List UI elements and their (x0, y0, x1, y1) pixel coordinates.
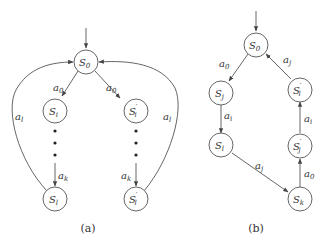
state-node-a-s0: S0 (74, 50, 98, 74)
ellipsis-dot (53, 129, 56, 132)
svg-text:S′l: S′l (293, 82, 302, 98)
edge-label: a0 (106, 82, 117, 95)
state-node-b-sk: Sk (288, 187, 312, 211)
svg-text:S′j: S′j (293, 138, 302, 154)
edge-label: ai (304, 113, 312, 126)
edge-label: ak (58, 170, 68, 183)
ellipsis-dot (134, 153, 137, 156)
caption-b: (b) (248, 222, 264, 235)
svg-text:S′l: S′l (129, 191, 138, 207)
state-node-b-sjp: S′j (288, 134, 312, 158)
edge-b-s0-sj (229, 54, 248, 81)
state-node-a-sip: S′i (124, 99, 148, 123)
edge-label: aj (283, 54, 292, 67)
ellipsis-dot (134, 129, 137, 132)
state-node-b-sl: Sl (209, 133, 233, 157)
state-node-b-s0: S0 (244, 33, 268, 57)
edge-label: al (15, 111, 23, 124)
state-node-a-sl: Sl (43, 187, 67, 211)
edge-label: ai (224, 110, 232, 123)
caption-a: (a) (80, 222, 95, 235)
edge-a-s0-si (62, 71, 78, 96)
edge-label: aj (255, 160, 264, 173)
edge-label: a0 (304, 168, 315, 181)
diagram-b: a0 ai aj a0 ai aj S0 Sj Sl Sk S′j S′l (209, 11, 315, 235)
diagram-a: a0 a0 ak ak al al S0 Si S′i Sl S′l (a) (12, 28, 178, 235)
ellipsis-dot (134, 141, 137, 144)
state-node-a-si: Si (43, 99, 67, 123)
edge-label: a0 (53, 82, 64, 95)
svg-text:S′i: S′i (129, 103, 138, 119)
state-node-b-slp: S′l (288, 78, 312, 102)
edge-a-slp-s0 (99, 62, 178, 191)
state-diagram-canvas: a0 a0 ak ak al al S0 Si S′i Sl S′l (a) (0, 0, 328, 243)
edge-label: ak (121, 170, 131, 183)
edge-label: a0 (219, 58, 230, 71)
state-node-b-sj: Sj (209, 81, 233, 105)
edge-label: al (163, 111, 171, 124)
state-node-a-slp: S′l (124, 187, 148, 211)
ellipsis-dot (53, 153, 56, 156)
ellipsis-dot (53, 141, 56, 144)
